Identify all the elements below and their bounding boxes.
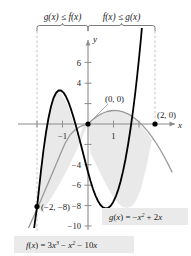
graph-svg: g(x) ≤ f(x) f(x) ≤ g(x) y x 6 4 −4 −6 −8… — [0, 0, 191, 256]
equation-g-label: g(x) = −x2 + 2x — [109, 212, 162, 222]
equation-f-label: f(x) = 3x3 − x2 − 10x — [26, 240, 97, 250]
point-label-minus2-minus8: (−2, −8) — [41, 202, 70, 212]
axis-label-x: x — [177, 120, 182, 130]
point-label-2-0: (2, 0) — [157, 110, 176, 120]
brace-left — [37, 23, 88, 31]
y-tick-label-minus6: −6 — [72, 180, 82, 190]
brace-right — [88, 23, 155, 31]
point-dot-minus2-minus8 — [34, 204, 39, 209]
point-dot-origin — [85, 121, 90, 126]
point-dot-2-0 — [152, 121, 157, 126]
label-region-right: f(x) ≤ g(x) — [103, 12, 141, 23]
y-tick-label-minus4: −4 — [72, 160, 82, 170]
point-label-origin: (0, 0) — [105, 94, 124, 104]
shaded-region-right — [88, 111, 155, 209]
y-tick-label-4: 4 — [77, 78, 82, 88]
axis-label-y: y — [92, 34, 97, 44]
figure-container: g(x) ≤ f(x) f(x) ≤ g(x) y x 6 4 −4 −6 −8… — [0, 0, 191, 256]
x-tick-label-minus1: −1 — [58, 131, 67, 141]
x-axis-arrow — [170, 122, 176, 127]
shaded-region-left — [37, 93, 88, 212]
x-tick-label-1: 1 — [111, 131, 115, 141]
y-tick-label-minus8: −8 — [72, 201, 81, 211]
y-tick-label-minus10: −10 — [68, 221, 81, 231]
y-tick-label-6: 6 — [77, 58, 82, 68]
label-region-left: g(x) ≤ f(x) — [44, 12, 82, 23]
y-axis-arrow — [86, 40, 91, 46]
